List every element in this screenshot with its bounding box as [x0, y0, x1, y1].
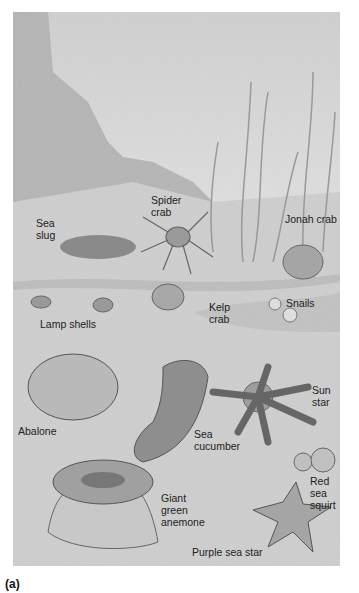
seafloor-scene — [13, 12, 340, 566]
marine-illustration: Sea slug Spider crab Jonah crab Lamp she… — [13, 12, 340, 566]
label-red-sea-squirt: Red sea squirt — [310, 475, 336, 511]
abalone-icon — [28, 354, 118, 420]
label-abalone: Abalone — [18, 425, 57, 437]
sea-slug-icon — [60, 235, 136, 259]
giant-green-anemone-icon — [48, 460, 158, 549]
label-jonah-crab: Jonah crab — [285, 213, 337, 225]
label-giant-green-anemone: Giant green anemone — [161, 492, 205, 528]
label-sea-slug: Sea slug — [36, 217, 55, 241]
label-sea-cucumber: Sea cucumber — [194, 428, 240, 452]
label-sun-star: Sun star — [312, 384, 331, 408]
jonah-crab-icon — [283, 245, 323, 279]
label-lamp-shells: Lamp shells — [40, 318, 96, 330]
label-kelp-crab: Kelp crab — [209, 301, 230, 325]
label-spider-crab: Spider crab — [151, 194, 181, 218]
kelp-crab-icon — [152, 284, 184, 310]
label-purple-sea-star: Purple sea star — [192, 546, 263, 558]
label-snails: Snails — [286, 297, 315, 309]
panel-label: (a) — [5, 577, 20, 591]
